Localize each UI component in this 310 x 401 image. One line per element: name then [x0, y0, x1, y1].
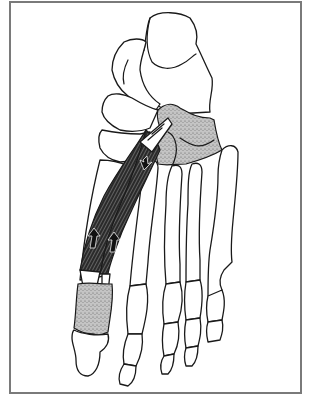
- insertion-stippled-region: [74, 283, 113, 335]
- foot-illustration: [0, 0, 310, 401]
- third-metatarsal: [161, 165, 182, 374]
- fifth-metatarsal: [207, 146, 239, 342]
- fourth-metatarsal: [185, 163, 203, 366]
- origin-stippled-region: [156, 104, 222, 166]
- great-toe-distal-phalanx: [72, 330, 109, 376]
